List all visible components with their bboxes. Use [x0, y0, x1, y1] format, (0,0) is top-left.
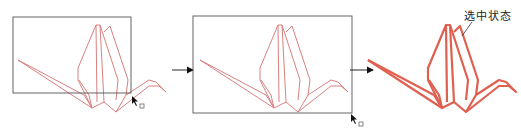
selection-rect-full: [193, 16, 352, 113]
cursor-icon-1: [132, 96, 144, 108]
selected-state-label: 选中状态: [464, 7, 512, 23]
crane-unselected-2: [200, 25, 348, 112]
cursor-icon-2: [351, 114, 363, 126]
diagram-canvas: [0, 0, 521, 137]
step-1-group: [13, 17, 193, 112]
crane-selected: [368, 25, 516, 112]
selection-rect-partial: [13, 17, 131, 93]
crane-unselected-1: [18, 25, 166, 112]
step-3-group: [368, 22, 516, 112]
label-leader-line: [462, 22, 472, 36]
step-2-group: [193, 16, 373, 126]
